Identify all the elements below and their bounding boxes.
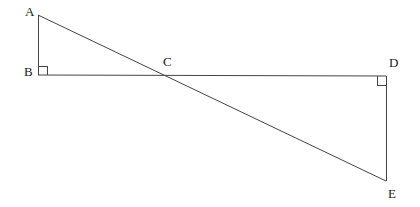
vertex-label-D: D <box>389 56 398 69</box>
vertex-label-C: C <box>163 55 172 68</box>
vertex-label-B: B <box>24 65 33 78</box>
right-angle-at-B <box>38 66 47 75</box>
vertex-label-A: A <box>25 5 34 18</box>
segment-AE <box>38 15 386 181</box>
segment-BD <box>38 75 386 76</box>
right-angle-at-D <box>377 76 386 85</box>
geometry-figure: A B C D E <box>0 0 420 207</box>
geometry-canvas <box>0 0 420 207</box>
vertex-label-E: E <box>388 187 396 200</box>
